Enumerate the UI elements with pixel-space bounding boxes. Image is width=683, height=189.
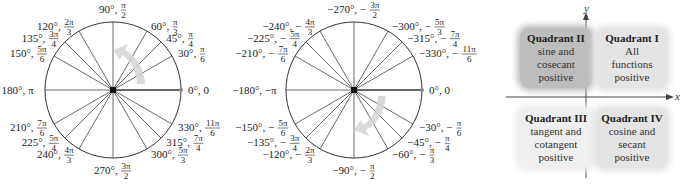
quadrant-iv-box: Quadrant IV cosine and secant positive xyxy=(596,108,668,168)
quadrant-ii-text: cosecant xyxy=(520,58,592,71)
quadrant-i-text: positive xyxy=(596,71,668,84)
quadrant-ii-box: Quadrant II sine and cosecant positive xyxy=(520,28,592,88)
quadrant-iv-title: Quadrant IV xyxy=(596,112,668,125)
x-axis-arrow-icon xyxy=(666,94,674,100)
quadrant-ii-title: Quadrant II xyxy=(520,32,592,45)
quadrant-iv-text: cosine and xyxy=(596,125,668,138)
quadrant-i-box: Quadrant I All functions positive xyxy=(596,28,668,88)
quadrant-iv-text: positive xyxy=(596,151,668,164)
quadrant-iii-text: cotangent xyxy=(518,138,594,151)
quadrant-iii-box: Quadrant III tangent and cotangent posit… xyxy=(518,108,594,168)
quadrant-i-text: functions xyxy=(596,58,668,71)
quadrant-ii-text: sine and xyxy=(520,45,592,58)
quadrant-i-text: All xyxy=(596,45,668,58)
quadrant-iii-title: Quadrant III xyxy=(518,112,594,125)
quadrant-i-title: Quadrant I xyxy=(596,32,668,45)
quadrant-iv-text: secant xyxy=(596,138,668,151)
quadrant-ii-text: positive xyxy=(520,71,592,84)
x-axis-label: x xyxy=(675,90,680,102)
y-axis-label: y xyxy=(584,2,589,14)
quadrant-iii-text: tangent and xyxy=(518,125,594,138)
quadrant-iii-text: positive xyxy=(518,151,594,164)
